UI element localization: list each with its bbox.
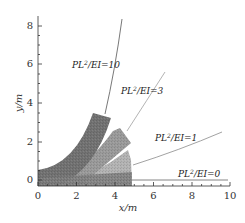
y-tick-2: 2 (27, 136, 33, 147)
x-tick-6: 6 (150, 190, 156, 201)
x-tick-8: 8 (189, 190, 195, 201)
x-tick-2: 2 (73, 190, 79, 201)
x-tick-10: 10 (224, 190, 237, 201)
label-EI3: PL2/EI=3 (120, 85, 164, 96)
x-tick-0: 0 (35, 190, 41, 201)
x-axis-label: x/m (119, 202, 138, 213)
chart: 8 6 4 2 0 0 2 4 6 8 10 x/m y/m PL2/EI=10… (0, 0, 245, 223)
y-axis-label: y/m (13, 94, 24, 114)
y-tick-4: 4 (27, 97, 33, 108)
label-EI0: PL2/EI=0 (177, 168, 221, 179)
curve-EI3 (127, 72, 165, 131)
y-tick-8: 8 (27, 20, 33, 31)
y-tick-6: 6 (27, 58, 33, 69)
y-tick-0: 0 (27, 174, 33, 185)
shaded-regions (38, 113, 132, 186)
label-EI1: PL2/EI=1 (154, 132, 197, 143)
x-tick-4: 4 (112, 190, 118, 201)
x-tick-labels: 0 2 4 6 8 10 (35, 190, 237, 201)
y-tick-labels: 8 6 4 2 0 (27, 20, 33, 185)
label-EI10: PL2/EI=10 (71, 59, 120, 70)
